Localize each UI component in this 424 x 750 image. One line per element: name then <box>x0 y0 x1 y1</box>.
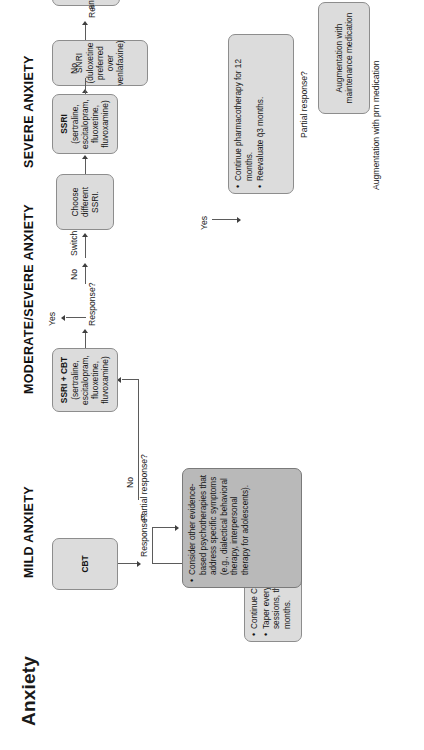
box-cbt-label: CBT <box>80 555 90 572</box>
edge-label-no-5: No <box>70 63 80 74</box>
page-title: Anxiety <box>18 656 40 726</box>
label-augmentation-prn: Augmentation with prn medication <box>372 61 382 190</box>
edge-snri-to-response4 <box>85 24 86 40</box>
arrowhead-right <box>82 263 88 267</box>
edge-label-partial-response-2: Partial response? <box>300 71 310 138</box>
edge-label-switch: Switch <box>70 231 80 256</box>
edge-response1-partial <box>152 528 153 564</box>
box-choose-different-ssri[interactable]: Choose different SSRI. <box>56 174 114 230</box>
edge-partial1-down <box>152 527 176 528</box>
box-snri-label: SNRI (duloxetine preferred over venlafax… <box>74 40 125 85</box>
box-ssri-cbt-title: SSRI + CBT <box>59 357 69 403</box>
arrowhead-d <box>237 217 241 223</box>
edge-yes3 <box>212 219 238 220</box>
edge-label-no-1: No <box>126 477 136 488</box>
box-continue-pharmacotherapy-bullet-1: Continue pharmacotherapy for 12 months. <box>234 40 255 181</box>
arrowhead-up <box>61 315 65 321</box>
box-tricyclic[interactable]: Tricyclic antidepressant <box>52 0 120 6</box>
box-other-psychotherapies-bullet-1: Consider other evidence-based psychother… <box>188 474 251 575</box>
edge-to-response3 <box>85 158 86 174</box>
box-continue-pharmacotherapy-bullet-2: Reevaluate q̄3 months. <box>256 40 267 181</box>
edge-ssri-to-response5 <box>85 78 86 94</box>
arrowhead-right <box>82 233 88 237</box>
edge-label-yes-2: Yes <box>48 312 58 326</box>
edge-switch <box>85 236 86 258</box>
section-header-severe: SEVERE ANXIETY <box>22 55 36 168</box>
box-ssri-cbt[interactable]: SSRI + CBT (sertraline, escitalopram, fl… <box>52 348 118 412</box>
box-ssri-title: SSRI <box>59 114 69 134</box>
box-continue-pharmacotherapy[interactable]: Continue pharmacotherapy for 12 months.R… <box>228 34 294 194</box>
edge-label-response-2: Response? <box>88 283 98 326</box>
edge-ssricbt-to-response2 <box>85 332 86 348</box>
box-ssri-subtitle: (sertraline, escitalopram, fluoxetine, f… <box>70 99 111 149</box>
arrowhead-right <box>82 155 88 159</box>
box-ssri[interactable]: SSRI(sertraline, escitalopram, fluoxetin… <box>52 94 118 154</box>
anxiety-algorithm-diagram: Anxiety MILD ANXIETY MODERATE/SEVERE ANX… <box>0 0 424 750</box>
box-choose-different-ssri-label: Choose different SSRI. <box>70 179 101 225</box>
edge-label-yes-3: Yes <box>200 216 210 230</box>
box-other-psychotherapies[interactable]: Consider other evidence-based psychother… <box>182 468 302 588</box>
box-snri[interactable]: SNRI (duloxetine preferred over venlafax… <box>52 40 148 86</box>
edge-cbt-to-response <box>118 563 138 564</box>
arrowhead-down <box>137 561 141 567</box>
box-tricyclic-title: Tricyclic antidepressant <box>76 0 96 9</box>
edge-no1-up <box>122 379 139 380</box>
edge-label-partial-response-1: Partial response? <box>140 454 150 521</box>
edge-no1-horizontal <box>138 380 139 500</box>
arrowhead-right <box>82 329 88 333</box>
box-augmentation-maintenance[interactable]: Augmentation with maintenance medication <box>318 2 370 114</box>
edge-response2-yes-stem <box>66 317 86 318</box>
section-header-mild: MILD ANXIETY <box>22 486 36 578</box>
box-augmentation-maintenance-title: Augmentation with maintenance medication <box>334 13 354 104</box>
arrowhead-r <box>82 21 88 25</box>
edge-label-no-2: No <box>70 269 80 280</box>
arrowhead-down <box>175 525 179 531</box>
edge-response2-no <box>85 266 86 284</box>
box-cbt[interactable]: CBT <box>52 538 118 590</box>
box-ssri-cbt-subtitle: (sertraline, escitalopram, fluoxetine, f… <box>70 353 111 407</box>
section-header-moderate-severe: MODERATE/SEVERE ANXIETY <box>22 204 36 394</box>
